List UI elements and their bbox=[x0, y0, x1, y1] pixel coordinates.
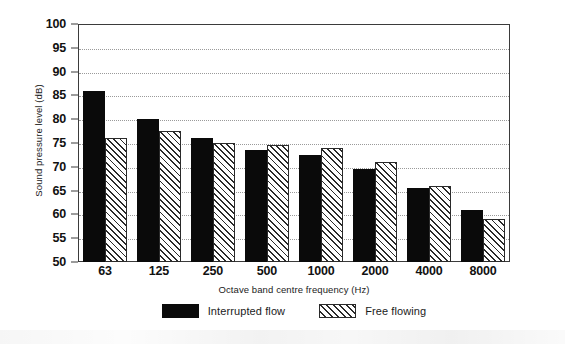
gridlines bbox=[79, 25, 509, 261]
gridline bbox=[79, 192, 509, 193]
y-tick-mark bbox=[71, 71, 78, 72]
y-tick-mark bbox=[71, 238, 78, 239]
y-tick-label: 95 bbox=[52, 41, 66, 55]
x-tick-label: 2000 bbox=[361, 264, 388, 278]
gridline bbox=[79, 120, 509, 121]
gridline bbox=[79, 239, 509, 240]
x-axis-title: Octave band centre frequency (Hz) bbox=[78, 284, 510, 295]
x-tick-label: 8000 bbox=[469, 264, 496, 278]
bar-chart-figure: Sound pressure level (dB) 10095908580757… bbox=[0, 0, 565, 344]
y-tick-mark bbox=[71, 95, 78, 96]
legend-label: Free flowing bbox=[365, 305, 426, 317]
x-tick-label: 1000 bbox=[307, 264, 334, 278]
y-tick-label: 50 bbox=[52, 255, 66, 269]
y-tick-mark bbox=[71, 190, 78, 191]
gridline bbox=[79, 96, 509, 97]
x-tick-label: 4000 bbox=[415, 264, 442, 278]
x-tick-label: 125 bbox=[149, 264, 169, 278]
scan-artifact bbox=[0, 330, 565, 344]
y-tick-mark bbox=[71, 24, 78, 25]
legend-swatch-solid-icon bbox=[162, 304, 199, 318]
y-tick-mark bbox=[71, 262, 78, 263]
chart-legend: Interrupted flow Free flowing bbox=[78, 304, 510, 318]
y-tick-label: 70 bbox=[52, 160, 66, 174]
legend-item-free-flowing: Free flowing bbox=[319, 304, 426, 318]
legend-label: Interrupted flow bbox=[208, 305, 285, 317]
y-tick-mark bbox=[71, 143, 78, 144]
y-tick-label: 85 bbox=[52, 88, 66, 102]
y-tick-label: 100 bbox=[46, 17, 66, 31]
y-tick-mark bbox=[71, 214, 78, 215]
y-tick-label: 75 bbox=[52, 136, 66, 150]
gridline bbox=[79, 73, 509, 74]
y-tick-label: 60 bbox=[52, 207, 66, 221]
gridline bbox=[79, 215, 509, 216]
y-tick-label: 80 bbox=[52, 112, 66, 126]
legend-item-interrupted-flow: Interrupted flow bbox=[162, 304, 285, 318]
x-tick-label: 500 bbox=[257, 264, 277, 278]
gridline bbox=[79, 144, 509, 145]
y-tick-label: 65 bbox=[52, 184, 66, 198]
y-tick-mark bbox=[71, 47, 78, 48]
y-tick-label: 55 bbox=[52, 231, 66, 245]
x-axis-tick-labels: 631252505001000200040008000 bbox=[78, 264, 510, 284]
y-tick-label: 90 bbox=[52, 65, 66, 79]
plot-area bbox=[78, 24, 510, 262]
gridline bbox=[79, 49, 509, 50]
y-tick-mark bbox=[71, 166, 78, 167]
x-tick-label: 250 bbox=[203, 264, 223, 278]
x-tick-label: 63 bbox=[98, 264, 112, 278]
legend-swatch-hatched-icon bbox=[319, 304, 356, 318]
gridline bbox=[79, 168, 509, 169]
y-tick-mark bbox=[71, 119, 78, 120]
y-axis-tick-labels: 10095908580757065605550 bbox=[0, 24, 78, 262]
